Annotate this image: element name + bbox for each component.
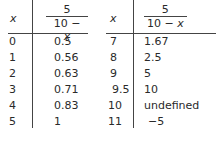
values-table-right: x 5 10 − x 71.67 82.5 95 9.510 10undefin… (106, 0, 216, 130)
table-row: 00.5 (8, 34, 88, 50)
table-row: 11−5 (106, 114, 216, 130)
table-row: 71.67 (106, 34, 216, 50)
x-column-header: x (110, 12, 117, 25)
table-row: 95 (106, 66, 216, 82)
table-row: 82.5 (106, 50, 216, 66)
table-row: 10.56 (8, 50, 88, 66)
table-header: x 5 10 − x (106, 0, 216, 34)
table-row: 40.83 (8, 98, 88, 114)
table-row: 10undefined (106, 98, 216, 114)
table-body: 71.67 82.5 95 9.510 10undefined 11−5 (106, 34, 216, 130)
table-header: x 5 10 − x (8, 0, 88, 34)
table-row: 51 (8, 114, 88, 130)
table-row: 30.71 (8, 82, 88, 98)
table-row: 20.63 (8, 66, 88, 82)
fraction-column-header: 5 10 − x (144, 3, 187, 30)
table-row: 9.510 (106, 82, 216, 98)
x-column-header: x (10, 12, 17, 25)
table-body: 00.5 10.56 20.63 30.71 40.83 51 (8, 34, 88, 130)
values-table-left: x 5 10 − x 00.5 10.56 20.63 30.71 40.83 … (8, 0, 88, 130)
